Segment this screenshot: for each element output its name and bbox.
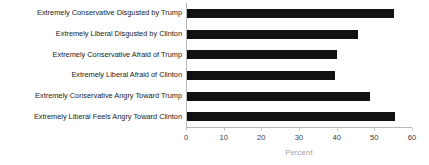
x-axis-tick-label: 40 (325, 133, 349, 143)
x-axis-tick-label: 20 (249, 133, 273, 143)
bar (187, 30, 358, 39)
x-axis-title: Percent (186, 148, 412, 157)
x-axis-tick-label: 30 (287, 133, 311, 143)
category-label: Extremely Conservative Afraid of Trump (0, 50, 184, 59)
category-label: Extremely Liberal Feels Angry Toward Cli… (0, 112, 184, 121)
x-axis-tick (186, 128, 187, 131)
category-label: Extremely Liberal Disgusted by Clinton (0, 29, 184, 38)
x-axis-tick-label: 0 (174, 133, 198, 143)
category-label: Extremely Conservative Disgusted by Trum… (0, 8, 184, 17)
bar (187, 9, 394, 18)
bar (187, 112, 395, 121)
category-label: Extremely Liberal Afraid of Clinton (0, 70, 184, 79)
bar (187, 92, 370, 101)
category-label-column: Extremely Conservative Disgusted by Trum… (0, 3, 184, 127)
plot-area: Percent 0102030405060 (186, 3, 412, 127)
x-axis-tick (374, 128, 375, 131)
bar-chart: Extremely Conservative Disgusted by Trum… (0, 0, 429, 165)
x-axis-tick (412, 128, 413, 131)
category-label: Extremely Conservative Angry Toward Trum… (0, 91, 184, 100)
x-axis-tick (337, 128, 338, 131)
x-axis-tick (261, 128, 262, 131)
x-axis-tick-label: 10 (212, 133, 236, 143)
bar (187, 50, 337, 59)
bar (187, 71, 335, 80)
x-axis-tick (299, 128, 300, 131)
x-axis-tick-label: 50 (362, 133, 386, 143)
y-axis-line (186, 3, 187, 127)
x-axis-tick (224, 128, 225, 131)
x-axis-tick-label: 60 (400, 133, 424, 143)
